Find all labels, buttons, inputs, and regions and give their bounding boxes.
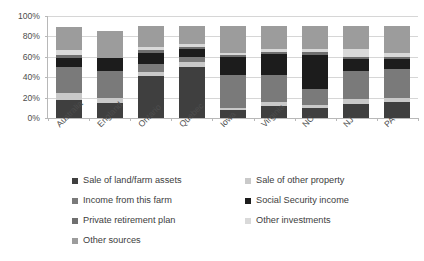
bar-segment[interactable] bbox=[138, 50, 164, 53]
legend-item-label: Private retirement plan bbox=[83, 216, 175, 225]
bar-segment[interactable] bbox=[384, 98, 410, 102]
bar-segment[interactable] bbox=[343, 49, 369, 57]
chart-root: 0%20%40%60%80%100% AustraliaEnglandOntar… bbox=[0, 0, 424, 261]
bar-segment[interactable] bbox=[302, 52, 328, 55]
y-axis-tick-label: 60% bbox=[23, 52, 40, 62]
bar-segment[interactable] bbox=[220, 53, 246, 55]
bar-segment[interactable] bbox=[97, 31, 123, 58]
legend-item-label: Social Security income bbox=[256, 196, 349, 205]
y-axis-tick-label: 100% bbox=[18, 11, 40, 21]
bar-segment[interactable] bbox=[384, 69, 410, 98]
bar-segment[interactable] bbox=[56, 50, 82, 55]
legend-item[interactable]: Other investments bbox=[245, 216, 331, 225]
legend-item[interactable]: Sale of land/farm assets bbox=[72, 176, 182, 185]
bar-segment[interactable] bbox=[179, 49, 205, 57]
bar-segment[interactable] bbox=[343, 99, 369, 104]
bar-segment[interactable] bbox=[343, 71, 369, 99]
bar-segment[interactable] bbox=[343, 59, 369, 71]
bar-segment[interactable] bbox=[261, 26, 287, 48]
legend-item-label: Sale of other property bbox=[256, 176, 344, 185]
bar-segment[interactable] bbox=[343, 57, 369, 59]
x-axis-labels: AustraliaEnglandOntarioQuebecIowaVirgini… bbox=[0, 118, 424, 170]
bar-segment[interactable] bbox=[384, 53, 410, 57]
legend-swatch-icon bbox=[245, 218, 251, 224]
bar-segment[interactable] bbox=[302, 55, 328, 90]
legend-swatch-icon bbox=[245, 198, 251, 204]
bar-segment[interactable] bbox=[261, 75, 287, 102]
bar-segment[interactable] bbox=[138, 26, 164, 46]
legend-item-label: Sale of land/farm assets bbox=[83, 176, 182, 185]
stacked-bar[interactable] bbox=[220, 16, 246, 118]
bar-segment[interactable] bbox=[138, 53, 164, 64]
bar-segment[interactable] bbox=[261, 49, 287, 52]
bar-segment[interactable] bbox=[384, 59, 410, 69]
legend-item-label: Income from this farm bbox=[83, 196, 172, 205]
bar-segment[interactable] bbox=[179, 57, 205, 62]
bar-segment[interactable] bbox=[138, 47, 164, 50]
legend-item-label: Other sources bbox=[83, 236, 141, 245]
bar-segment[interactable] bbox=[179, 47, 205, 49]
bar-segment[interactable] bbox=[179, 26, 205, 43]
bar-segment[interactable] bbox=[302, 26, 328, 48]
bar-series-container bbox=[48, 16, 418, 118]
legend-item-label: Other investments bbox=[256, 216, 331, 225]
legend-swatch-icon bbox=[72, 198, 78, 204]
legend-swatch-icon bbox=[72, 238, 78, 244]
bar-segment[interactable] bbox=[220, 57, 246, 75]
bar-segment[interactable] bbox=[56, 58, 82, 67]
legend-item[interactable]: Social Security income bbox=[245, 196, 349, 205]
bar-segment[interactable] bbox=[220, 55, 246, 57]
bar-segment[interactable] bbox=[302, 89, 328, 104]
y-axis-tick-label: 80% bbox=[23, 31, 40, 41]
y-axis-tick-label: 20% bbox=[23, 93, 40, 103]
bar-segment[interactable] bbox=[343, 26, 369, 48]
legend-item[interactable]: Income from this farm bbox=[72, 196, 172, 205]
bar-segment[interactable] bbox=[56, 27, 82, 49]
legend-item[interactable]: Sale of other property bbox=[245, 176, 344, 185]
bar-segment[interactable] bbox=[179, 44, 205, 47]
bar-segment[interactable] bbox=[179, 62, 205, 67]
bar-segment[interactable] bbox=[97, 58, 123, 71]
bar-segment[interactable] bbox=[97, 71, 123, 98]
bar-segment[interactable] bbox=[302, 49, 328, 52]
bar-segment[interactable] bbox=[220, 75, 246, 108]
stacked-bar[interactable] bbox=[343, 16, 369, 118]
bar-segment[interactable] bbox=[138, 64, 164, 72]
bar-segment[interactable] bbox=[138, 72, 164, 76]
bar-segment[interactable] bbox=[56, 55, 82, 58]
y-axis-tick-label: 40% bbox=[23, 72, 40, 82]
bar-segment[interactable] bbox=[220, 108, 246, 110]
legend-item[interactable]: Private retirement plan bbox=[72, 216, 175, 225]
bar-segment[interactable] bbox=[56, 67, 82, 93]
stacked-bar[interactable] bbox=[302, 16, 328, 118]
stacked-bar[interactable] bbox=[384, 16, 410, 118]
legend-swatch-icon bbox=[245, 178, 251, 184]
bar-segment[interactable] bbox=[384, 26, 410, 53]
legend-item[interactable]: Other sources bbox=[72, 236, 141, 245]
stacked-bar[interactable] bbox=[261, 16, 287, 118]
legend-swatch-icon bbox=[72, 218, 78, 224]
bar-segment[interactable] bbox=[220, 26, 246, 53]
stacked-bar[interactable] bbox=[138, 16, 164, 118]
bar-segment[interactable] bbox=[261, 52, 287, 54]
chart-area: 0%20%40%60%80%100% AustraliaEnglandOntar… bbox=[0, 0, 424, 170]
bar-segment[interactable] bbox=[261, 54, 287, 75]
legend-swatch-icon bbox=[72, 178, 78, 184]
bar-segment[interactable] bbox=[384, 57, 410, 59]
bar-segment[interactable] bbox=[302, 105, 328, 108]
y-axis-labels: 0%20%40%60%80%100% bbox=[0, 0, 44, 102]
chart-legend: Sale of land/farm assetsIncome from this… bbox=[0, 172, 424, 258]
plot-area bbox=[47, 16, 418, 119]
